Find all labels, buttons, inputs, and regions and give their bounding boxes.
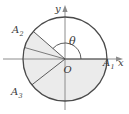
point-label-a1-base: A [102,57,110,68]
point-label-a3-base: A [10,86,18,97]
origin-label: O [64,64,72,75]
unit-circle-diagram: θ O y x A 1 A 2 A 3 [0,0,129,114]
y-axis-label: y [54,3,61,14]
angle-theta-label: θ [69,35,76,48]
point-label-a2-base: A [11,24,19,35]
x-axis-label: x [118,57,124,68]
point-label-a1-subscript: 1 [111,63,115,71]
figure-canvas: θ O y x A 1 A 2 A 3 [0,0,129,114]
point-label-a3-subscript: 3 [19,92,23,100]
point-label-a2-subscript: 2 [19,30,24,38]
y-axis-arrow-icon [62,5,67,12]
point-label-a2: A 2 [11,24,24,38]
point-label-a3: A 3 [10,86,23,100]
